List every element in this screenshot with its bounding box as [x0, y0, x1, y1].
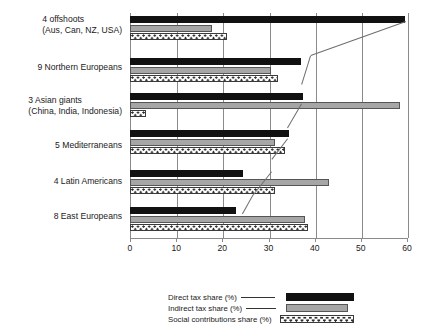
category-label-4: 4 Latin Americans [54, 176, 122, 187]
bar-direct-0 [130, 16, 405, 23]
x-tick-30 [269, 238, 270, 242]
category-label-line1: 4 Latin Americans [54, 176, 122, 186]
bar-indirect-5 [130, 216, 305, 223]
x-tick-label-10: 10 [171, 243, 181, 253]
legend-row-indirect: Indirect tax share (%) [168, 303, 276, 314]
bar-direct-5 [130, 207, 236, 214]
category-label-line2: (China, India, Indonesia) [28, 106, 122, 117]
category-label-line1: 8 East Europeans [54, 211, 122, 221]
bar-chart: 4 offshoots(Aus, Can, NZ, USA)9 Northern… [0, 0, 425, 335]
category-label-5: 8 East Europeans [54, 211, 122, 222]
category-axis-labels: 4 offshoots(Aus, Can, NZ, USA)9 Northern… [0, 0, 128, 238]
bar-social-2 [130, 110, 146, 117]
gridline-40 [316, 13, 317, 238]
bar-indirect-4 [130, 179, 329, 186]
x-tick-60 [407, 238, 408, 242]
bar-indirect-0 [130, 25, 212, 32]
x-tick-label-0: 0 [128, 243, 133, 253]
plot-area [130, 13, 409, 238]
gridline-10 [177, 13, 178, 238]
category-label-1: 9 Northern Europeans [37, 62, 122, 73]
chart-legend: Direct tax share (%)Indirect tax share (… [168, 292, 368, 328]
x-tick-40 [315, 238, 316, 242]
legend-row-direct: Direct tax share (%) [168, 292, 275, 303]
gridline-30 [270, 13, 271, 238]
bar-indirect-1 [130, 67, 271, 74]
legend-connector-indirect [246, 308, 276, 309]
category-label-3: 5 Mediterraneans [55, 140, 122, 151]
x-tick-label-60: 60 [402, 243, 412, 253]
bar-direct-4 [130, 170, 243, 177]
category-label-line1: 3 Asian giants [28, 95, 82, 105]
gridline-50 [362, 13, 363, 238]
gridline-20 [223, 13, 224, 238]
legend-row-social: Social contributions share (%) [168, 314, 272, 325]
bar-direct-2 [130, 93, 303, 100]
legend-swatch-direct [286, 293, 354, 301]
bar-social-1 [130, 75, 278, 82]
legend-connector-direct [241, 297, 275, 298]
category-label-2: 3 Asian giants(China, India, Indonesia) [28, 95, 122, 116]
bar-social-5 [130, 224, 308, 231]
category-label-0: 4 offshoots(Aus, Can, NZ, USA) [42, 14, 122, 35]
category-label-line2: (Aus, Can, NZ, USA) [42, 25, 122, 36]
x-tick-50 [361, 238, 362, 242]
bar-direct-3 [130, 130, 289, 137]
legend-label-social: Social contributions share (%) [168, 315, 272, 324]
x-tick-20 [222, 238, 223, 242]
category-label-line1: 5 Mediterraneans [55, 140, 122, 150]
x-tick-label-30: 30 [264, 243, 274, 253]
x-tick-10 [176, 238, 177, 242]
bar-indirect-3 [130, 139, 275, 146]
bar-indirect-2 [130, 102, 400, 109]
bar-direct-1 [130, 58, 301, 65]
x-tick-label-20: 20 [218, 243, 228, 253]
x-tick-0 [130, 238, 131, 242]
legend-label-indirect: Indirect tax share (%) [168, 304, 242, 313]
category-label-line1: 9 Northern Europeans [37, 62, 122, 72]
x-tick-label-50: 50 [356, 243, 366, 253]
category-label-line1: 4 offshoots [42, 14, 84, 24]
legend-swatch-social [280, 315, 354, 323]
x-tick-label-40: 40 [310, 243, 320, 253]
bar-social-0 [130, 33, 227, 40]
legend-label-direct: Direct tax share (%) [168, 293, 237, 302]
legend-swatch-indirect [286, 304, 348, 312]
bar-social-3 [130, 147, 285, 154]
